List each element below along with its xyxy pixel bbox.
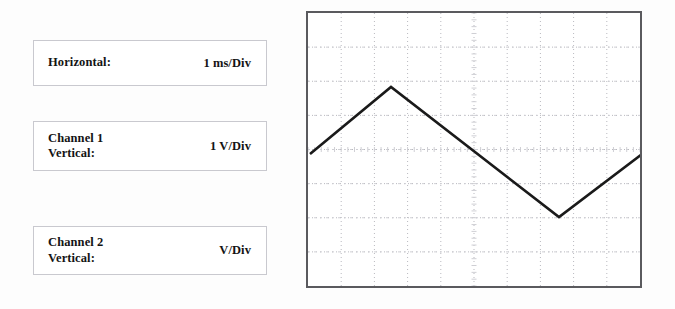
channel-2-vertical-label: Channel 2 Vertical: (48, 235, 103, 266)
channel-2-vertical-value: V/Div (219, 243, 253, 258)
waveform-channel-1 (308, 13, 640, 286)
channel-1-vertical-label: Channel 1 Vertical: (48, 131, 103, 162)
setting-row: Horizontal: 1ms/Div (48, 55, 253, 70)
settings-panel: Horizontal: 1ms/Div Channel 1 Vertical: … (33, 0, 269, 309)
horizontal-label: Horizontal: (48, 55, 111, 70)
channel-1-vertical-value: 1V/Div (210, 139, 253, 154)
horizontal-value: 1ms/Div (204, 56, 253, 71)
channel-2-value-unit: V/Div (219, 243, 251, 257)
oscilloscope-screen (308, 13, 640, 286)
setting-box-horizontal[interactable]: Horizontal: 1ms/Div (33, 40, 267, 86)
setting-box-channel-1-vertical[interactable]: Channel 1 Vertical: 1V/Div (33, 121, 267, 171)
setting-row: Channel 1 Vertical: 1V/Div (48, 131, 253, 162)
setting-row: Channel 2 Vertical: V/Div (48, 235, 253, 266)
setting-box-channel-2-vertical[interactable]: Channel 2 Vertical: V/Div (33, 226, 267, 275)
channel-1-value-unit: V/Div (219, 139, 251, 153)
page-root: Horizontal: 1ms/Div Channel 1 Vertical: … (0, 0, 675, 309)
channel-1-value-number: 1 (210, 139, 216, 153)
oscilloscope-display[interactable] (306, 11, 642, 288)
horizontal-value-number: 1 (204, 56, 210, 70)
horizontal-value-unit: ms/Div (213, 56, 251, 70)
